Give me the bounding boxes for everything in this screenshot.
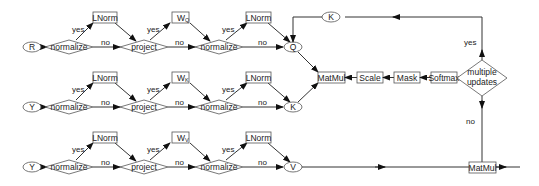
svg-text:LNorm: LNorm	[92, 13, 118, 23]
svg-text:multiple: multiple	[467, 67, 497, 77]
attention-flow-diagram: yes no yes no yes no R normalize project…	[0, 0, 539, 186]
svg-text:Q: Q	[185, 17, 190, 23]
svg-text:K: K	[328, 12, 334, 22]
no-label: no	[258, 38, 267, 47]
svg-text:normalize: normalize	[51, 102, 88, 112]
svg-text:yes: yes	[222, 85, 234, 94]
svg-text:W: W	[177, 73, 185, 83]
svg-text:LNorm: LNorm	[246, 13, 272, 23]
svg-text:LNorm: LNorm	[246, 133, 272, 143]
svg-text:project: project	[131, 162, 157, 172]
svg-text:no: no	[175, 98, 184, 107]
svg-text:LNorm: LNorm	[92, 133, 118, 143]
no-label: no	[101, 38, 110, 47]
svg-text:Y: Y	[29, 162, 35, 172]
svg-text:K: K	[290, 102, 296, 112]
svg-text:no: no	[101, 98, 110, 107]
svg-text:W: W	[177, 133, 185, 143]
svg-text:updates: updates	[467, 77, 497, 87]
svg-text:K: K	[185, 77, 189, 83]
svg-text:no: no	[175, 158, 184, 167]
svg-text:LNorm: LNorm	[246, 73, 272, 83]
svg-text:project: project	[131, 102, 157, 112]
svg-text:normalize: normalize	[201, 102, 238, 112]
svg-text:project: project	[131, 42, 157, 52]
yes-label: yes	[464, 38, 476, 47]
svg-text:Softmax: Softmax	[428, 73, 460, 83]
svg-text:no: no	[258, 98, 267, 107]
svg-text:normalize: normalize	[201, 162, 238, 172]
svg-text:MatMul: MatMul	[318, 73, 346, 83]
svg-text:normalize: normalize	[201, 42, 238, 52]
svg-text:MatMul: MatMul	[469, 163, 497, 173]
svg-text:Scale: Scale	[359, 73, 381, 83]
key-row: yes no yes no yes no Y normalize project…	[23, 72, 302, 114]
svg-text:yes: yes	[147, 85, 159, 94]
value-row: yes no yes no yes no Y normalize project…	[23, 132, 302, 174]
svg-text:no: no	[258, 158, 267, 167]
yes-label: yes	[72, 25, 84, 34]
yes-label: yes	[147, 25, 159, 34]
svg-text:V: V	[290, 162, 296, 172]
svg-text:yes: yes	[147, 145, 159, 154]
svg-text:yes: yes	[72, 145, 84, 154]
svg-text:normalize: normalize	[51, 42, 88, 52]
svg-text:V: V	[185, 137, 189, 143]
svg-text:Mask: Mask	[397, 73, 418, 83]
svg-text:yes: yes	[72, 85, 84, 94]
svg-text:no: no	[101, 158, 110, 167]
svg-text:R: R	[29, 42, 35, 52]
svg-text:Q: Q	[290, 42, 297, 52]
svg-text:normalize: normalize	[51, 162, 88, 172]
svg-text:W: W	[177, 13, 185, 23]
no-label: no	[466, 117, 475, 126]
svg-text:yes: yes	[222, 145, 234, 154]
query-row: yes no yes no yes no R normalize project…	[23, 12, 302, 54]
svg-text:LNorm: LNorm	[92, 73, 118, 83]
yes-label: yes	[222, 25, 234, 34]
svg-text:Y: Y	[29, 102, 35, 112]
no-label: no	[175, 38, 184, 47]
